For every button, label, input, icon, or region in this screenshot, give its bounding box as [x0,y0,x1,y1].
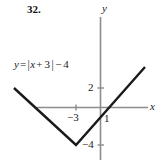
abs-bar-close: | [51,57,54,71]
figure-container: 32. y=|x+3|−4 y x −3 1 2 −4 [0,0,162,163]
x-axis-label: x [150,100,155,112]
equation-outer-const: 4 [62,58,70,70]
equation-inner-const: 3 [43,58,51,70]
y-axis-label: y [102,2,107,14]
absolute-value-curve [14,67,145,145]
y-tick-label-neg4: −4 [82,138,94,150]
graph-plot [0,0,162,163]
x-tick-label-neg3: −3 [67,111,79,123]
abs-bar-open: | [27,57,30,71]
x-tick-label-1: 1 [104,112,110,124]
equation-annotation: y=|x+3|−4 [14,58,70,70]
equation-equals: = [19,58,27,70]
y-tick-label-2: 2 [88,81,94,93]
